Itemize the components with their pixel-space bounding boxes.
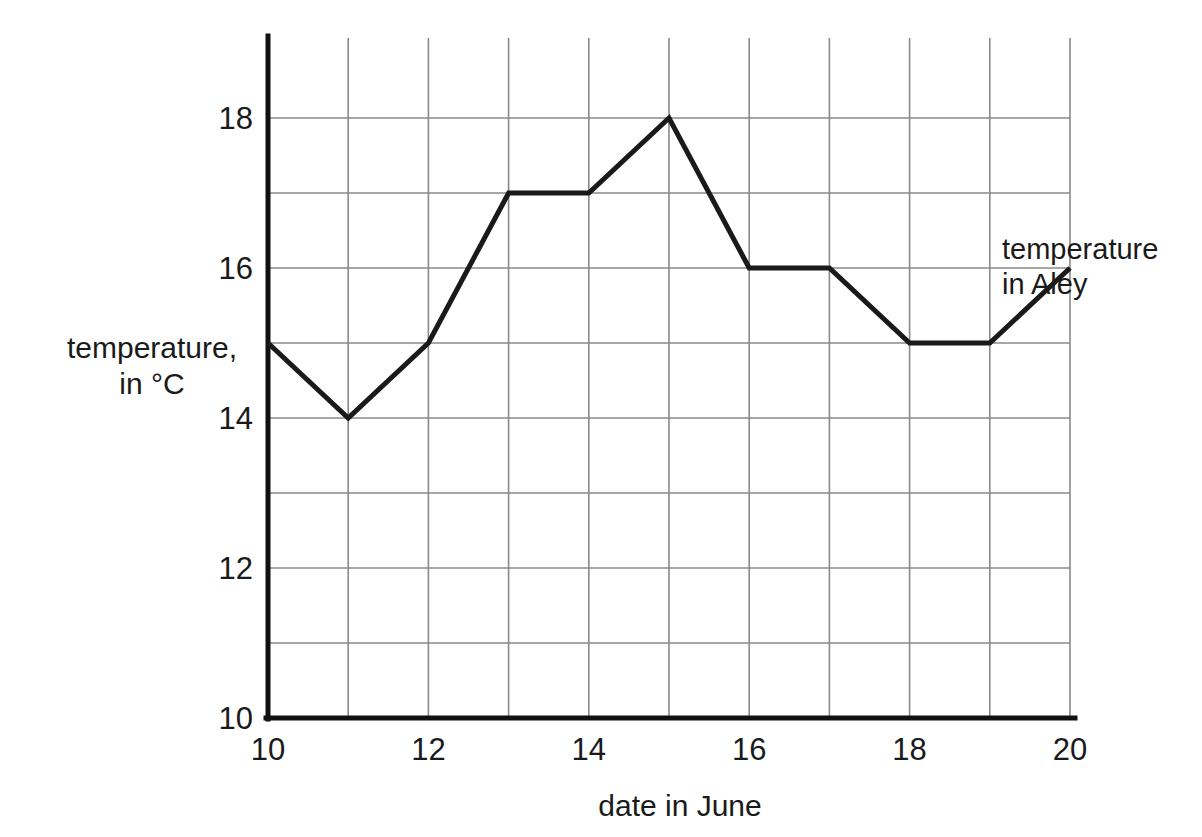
y-tick-label: 14 [219, 401, 253, 436]
x-tick-label: 10 [251, 732, 285, 767]
chart-container: 101214161820 1012141618 date in June tem… [0, 0, 1202, 837]
x-tick-label: 16 [732, 732, 766, 767]
x-tick-label: 14 [572, 732, 606, 767]
x-tick-label: 12 [411, 732, 445, 767]
line-chart: 101214161820 1012141618 date in June tem… [0, 0, 1202, 837]
x-axis-title: date in June [598, 789, 761, 822]
x-tick-label: 18 [892, 732, 926, 767]
series-label-line1: temperature [1002, 233, 1158, 265]
y-axis-title-line2: in °C [119, 367, 184, 400]
series-label-line2: in Aley [1002, 268, 1088, 300]
y-tick-label: 12 [219, 551, 253, 586]
y-tick-label: 16 [219, 251, 253, 286]
y-axis-title-line1: temperature, [67, 331, 237, 364]
y-tick-label: 18 [219, 101, 253, 136]
x-tick-label: 20 [1053, 732, 1087, 767]
y-tick-label: 10 [219, 701, 253, 736]
